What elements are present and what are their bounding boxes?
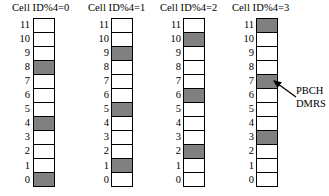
- row-label: 0: [236, 173, 256, 187]
- resource-element-dmrs: [184, 33, 204, 47]
- row-label: 11: [12, 18, 32, 32]
- resource-element-empty: [112, 145, 132, 159]
- row-label: 2: [163, 145, 183, 159]
- row-label: 11: [163, 18, 183, 32]
- row-label: 7: [91, 74, 111, 88]
- resource-element-empty: [112, 75, 132, 89]
- resource-element-dmrs: [112, 47, 132, 61]
- pbch-dmrs-diagram: Cell ID%4=0 11 10 9 8 7 6 5 4 3 2 1 0 Ce…: [0, 0, 329, 196]
- resource-element-empty: [34, 19, 54, 33]
- row-label: 11: [236, 18, 256, 32]
- annotation-line-2: DMRS: [296, 97, 326, 110]
- resource-element-empty: [34, 131, 54, 145]
- resource-element-empty: [34, 89, 54, 103]
- resource-element-empty: [184, 173, 204, 186]
- group-title-1: Cell ID%4=1: [88, 2, 145, 14]
- resource-element-empty: [184, 47, 204, 61]
- row-label: 3: [236, 131, 256, 145]
- row-label: 1: [12, 159, 32, 173]
- resource-element-empty: [34, 47, 54, 61]
- row-label: 1: [163, 159, 183, 173]
- row-label: 9: [236, 46, 256, 60]
- resource-element-empty: [112, 131, 132, 145]
- row-label: 3: [91, 131, 111, 145]
- row-label: 9: [12, 46, 32, 60]
- resource-element-dmrs: [257, 131, 277, 145]
- annotation-line-1: PBCH: [296, 84, 326, 97]
- group-title-2: Cell ID%4=2: [160, 2, 217, 14]
- resource-element-empty: [112, 33, 132, 47]
- row-label: 5: [163, 102, 183, 116]
- row-label: 1: [236, 159, 256, 173]
- row-label: 0: [91, 173, 111, 187]
- subcarrier-grid-0: [33, 18, 55, 187]
- resource-element-empty: [184, 19, 204, 33]
- resource-element-dmrs: [184, 145, 204, 159]
- row-label: 6: [91, 88, 111, 102]
- row-label: 8: [12, 60, 32, 74]
- row-label: 9: [163, 46, 183, 60]
- subcarrier-grid-3: [256, 18, 278, 187]
- row-label: 6: [12, 88, 32, 102]
- resource-element-empty: [184, 103, 204, 117]
- row-label: 2: [236, 145, 256, 159]
- row-label: 4: [12, 117, 32, 131]
- row-label: 0: [163, 173, 183, 187]
- resource-element-dmrs: [34, 117, 54, 131]
- resource-element-empty: [257, 117, 277, 131]
- row-label: 1: [91, 159, 111, 173]
- row-label: 8: [91, 60, 111, 74]
- resource-element-empty: [257, 61, 277, 75]
- resource-element-dmrs: [34, 173, 54, 186]
- row-label: 10: [91, 32, 111, 46]
- row-label: 6: [236, 88, 256, 102]
- pbch-dmrs-annotation: PBCH DMRS: [296, 84, 326, 110]
- resource-element-empty: [257, 103, 277, 117]
- resource-element-empty: [34, 159, 54, 173]
- resource-element-empty: [184, 75, 204, 89]
- row-label: 10: [12, 32, 32, 46]
- group-title-3: Cell ID%4=3: [232, 2, 289, 14]
- group-title-0: Cell ID%4=0: [12, 2, 69, 14]
- row-label: 7: [12, 74, 32, 88]
- row-label: 6: [163, 88, 183, 102]
- row-label: 4: [163, 117, 183, 131]
- resource-element-empty: [112, 173, 132, 186]
- resource-element-empty: [257, 89, 277, 103]
- row-label: 2: [91, 145, 111, 159]
- subcarrier-grid-2: [183, 18, 205, 187]
- resource-element-empty: [184, 131, 204, 145]
- resource-element-empty: [257, 47, 277, 61]
- resource-element-empty: [184, 159, 204, 173]
- row-label: 4: [236, 117, 256, 131]
- row-label: 10: [236, 32, 256, 46]
- resource-element-dmrs: [257, 19, 277, 33]
- row-label: 3: [163, 131, 183, 145]
- row-label: 2: [12, 145, 32, 159]
- row-label: 8: [236, 60, 256, 74]
- resource-element-empty: [112, 89, 132, 103]
- resource-element-empty: [34, 75, 54, 89]
- row-label: 7: [236, 74, 256, 88]
- resource-element-dmrs: [112, 159, 132, 173]
- row-label: 9: [91, 46, 111, 60]
- row-label: 5: [91, 102, 111, 116]
- resource-element-dmrs: [184, 89, 204, 103]
- row-label: 3: [12, 131, 32, 145]
- resource-element-dmrs: [112, 103, 132, 117]
- resource-element-empty: [112, 117, 132, 131]
- resource-element-dmrs: [257, 75, 277, 89]
- resource-element-empty: [184, 117, 204, 131]
- resource-element-empty: [34, 103, 54, 117]
- resource-element-empty: [184, 61, 204, 75]
- resource-element-empty: [112, 61, 132, 75]
- row-labels-0: 11 10 9 8 7 6 5 4 3 2 1 0: [12, 18, 32, 187]
- resource-element-empty: [257, 33, 277, 47]
- resource-element-empty: [257, 145, 277, 159]
- row-labels-1: 11 10 9 8 7 6 5 4 3 2 1 0: [91, 18, 111, 187]
- row-label: 4: [91, 117, 111, 131]
- row-label: 5: [236, 102, 256, 116]
- resource-element-empty: [34, 33, 54, 47]
- row-label: 7: [163, 74, 183, 88]
- row-label: 0: [12, 173, 32, 187]
